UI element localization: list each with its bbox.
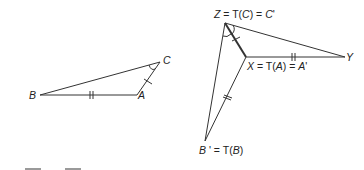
vertex-label-c: C xyxy=(163,55,171,66)
vertex-label-a: A xyxy=(138,90,145,101)
vertex-label-x: X = T(A) = A' xyxy=(247,61,307,72)
vertex-label-b: B xyxy=(29,90,36,101)
angle-arc-c xyxy=(149,65,155,70)
image-figure xyxy=(205,23,345,141)
diagram-canvas xyxy=(0,0,364,170)
angle-arc-z-lower xyxy=(223,34,231,37)
segment-zbp xyxy=(205,23,225,141)
segment-xbp xyxy=(205,57,246,141)
vertex-label-b-prime: B ' = T(B) xyxy=(199,145,243,156)
decorative-bar xyxy=(25,168,41,170)
vertex-label-y: Y xyxy=(346,52,353,63)
angle-arc-z-upper xyxy=(232,25,234,34)
decorative-bar xyxy=(65,168,81,170)
vertex-label-z: Z = T(C) = C' xyxy=(214,9,275,20)
